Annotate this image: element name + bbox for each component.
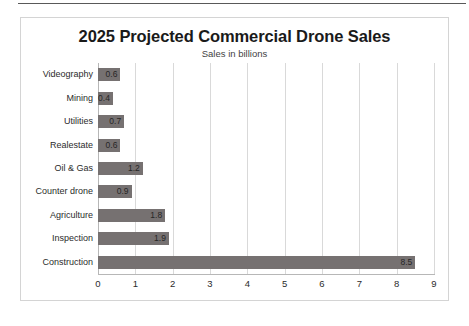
category-label: Counter drone bbox=[23, 185, 93, 198]
category-label-wrap: Realestate bbox=[23, 139, 93, 152]
category-label-wrap: Videography bbox=[23, 68, 93, 81]
bar-value-label: 8.5 bbox=[98, 256, 415, 269]
category-label-wrap: Mining bbox=[23, 92, 93, 105]
category-label: Inspection bbox=[23, 232, 93, 245]
bar-row: 0.9 bbox=[98, 185, 434, 198]
x-tick-9: 9 bbox=[422, 278, 446, 289]
bar-value-label: 0.6 bbox=[98, 68, 120, 81]
bar-row: 0.4 bbox=[98, 92, 434, 105]
bar-value-label: 0.9 bbox=[98, 185, 132, 198]
x-tick-0: 0 bbox=[86, 278, 110, 289]
x-tick-7: 7 bbox=[347, 278, 371, 289]
x-tick-3: 3 bbox=[198, 278, 222, 289]
category-label: Agriculture bbox=[23, 209, 93, 222]
bar-row: 1.9 bbox=[98, 232, 434, 245]
x-axis-line bbox=[98, 274, 435, 275]
category-label-wrap: Counter drone bbox=[23, 185, 93, 198]
bar-row: 0.6 bbox=[98, 139, 434, 152]
category-label-wrap: Utilities bbox=[23, 115, 93, 128]
bar-value-label: 0.6 bbox=[98, 139, 120, 152]
x-tick-4: 4 bbox=[235, 278, 259, 289]
chart-subtitle: Sales in billions bbox=[21, 48, 448, 59]
page-top-rule bbox=[18, 3, 466, 4]
bar-row: 1.8 bbox=[98, 209, 434, 222]
gridline-9 bbox=[434, 63, 435, 274]
x-tick-6: 6 bbox=[310, 278, 334, 289]
bar-row: 8.5 bbox=[98, 256, 434, 269]
x-tick-5: 5 bbox=[273, 278, 297, 289]
category-label: Construction bbox=[23, 256, 93, 269]
category-label-wrap: Oil & Gas bbox=[23, 162, 93, 175]
bar-value-label: 0.4 bbox=[98, 92, 113, 105]
bar-row: 0.7 bbox=[98, 115, 434, 128]
category-label: Mining bbox=[23, 92, 93, 105]
x-tick-8: 8 bbox=[385, 278, 409, 289]
category-label: Oil & Gas bbox=[23, 162, 93, 175]
x-tick-2: 2 bbox=[161, 278, 185, 289]
category-label: Realestate bbox=[23, 139, 93, 152]
bar-value-label: 1.8 bbox=[98, 209, 165, 222]
chart-title: 2025 Projected Commercial Drone Sales bbox=[21, 27, 448, 46]
category-label: Videography bbox=[23, 68, 93, 81]
bar-row: 1.2 bbox=[98, 162, 434, 175]
category-label-wrap: Agriculture bbox=[23, 209, 93, 222]
bar-value-label: 1.9 bbox=[98, 232, 169, 245]
bar-row: 0.6 bbox=[98, 68, 434, 81]
bar-value-label: 0.7 bbox=[98, 115, 124, 128]
chart-container: 2025 Projected Commercial Drone Sales Sa… bbox=[20, 17, 449, 301]
category-label-wrap: Construction bbox=[23, 256, 93, 269]
x-tick-1: 1 bbox=[123, 278, 147, 289]
category-label: Utilities bbox=[23, 115, 93, 128]
category-label-wrap: Inspection bbox=[23, 232, 93, 245]
bar-value-label: 1.2 bbox=[98, 162, 143, 175]
